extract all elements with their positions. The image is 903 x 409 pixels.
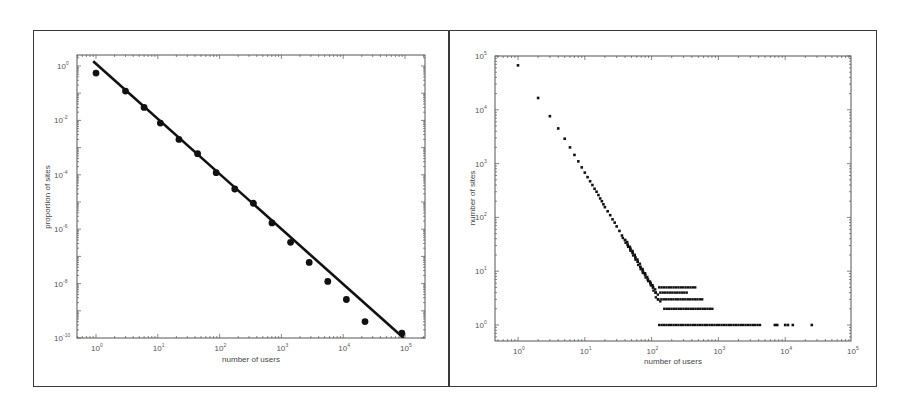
band-point xyxy=(678,308,680,310)
plot-area: 100101102103104105100101102103104105numb… xyxy=(468,50,859,366)
band-point xyxy=(701,298,703,300)
band-point xyxy=(665,286,667,288)
x-axis-label: number of users xyxy=(644,357,702,366)
band-point xyxy=(658,286,660,288)
band-point xyxy=(682,308,684,310)
y-tick-exponent: 1 xyxy=(484,265,487,271)
band-point xyxy=(699,298,701,300)
data-point xyxy=(573,154,576,157)
outlier-point xyxy=(774,324,777,327)
band-point xyxy=(740,324,742,326)
data-points xyxy=(517,64,813,326)
y-tick-exponent: 5 xyxy=(484,50,487,56)
band-point xyxy=(684,324,686,326)
band-point xyxy=(667,298,669,300)
data-point xyxy=(599,197,602,200)
band-point xyxy=(683,291,685,293)
band-point xyxy=(678,291,680,293)
band-point xyxy=(685,308,687,310)
outlier-point xyxy=(810,324,813,327)
right-chart-number-of-sites: 100101102103104105100101102103104105numb… xyxy=(0,0,903,409)
band-point xyxy=(744,324,746,326)
band-point xyxy=(732,324,734,326)
outlier-point xyxy=(776,324,779,327)
band-point xyxy=(694,308,696,310)
data-point xyxy=(586,176,589,179)
band-point xyxy=(756,324,758,326)
band-point xyxy=(718,324,720,326)
band-point xyxy=(663,324,665,326)
band-point xyxy=(687,298,689,300)
band-point xyxy=(665,324,667,326)
band-point xyxy=(660,286,662,288)
band-point xyxy=(664,291,666,293)
band-point xyxy=(666,291,668,293)
band-point xyxy=(672,324,674,326)
y-tick-exponent: 0 xyxy=(484,319,487,325)
band-point xyxy=(728,324,730,326)
data-point xyxy=(613,221,616,224)
data-point xyxy=(621,234,624,237)
band-point xyxy=(660,324,662,326)
band-point xyxy=(658,324,660,326)
band-point xyxy=(673,308,675,310)
data-point xyxy=(517,64,520,67)
band-point xyxy=(754,324,756,326)
band-point xyxy=(670,286,672,288)
band-point xyxy=(692,286,694,288)
band-point xyxy=(687,324,689,326)
band-point xyxy=(713,324,715,326)
band-point xyxy=(670,324,672,326)
band-point xyxy=(747,324,749,326)
band-point xyxy=(687,308,689,310)
band-point xyxy=(725,324,727,326)
data-point xyxy=(615,225,618,228)
band-point xyxy=(670,308,672,310)
band-point xyxy=(680,324,682,326)
band-point xyxy=(663,308,665,310)
band-point xyxy=(711,308,713,310)
outlier-point xyxy=(787,324,790,327)
band-point xyxy=(676,291,678,293)
data-point xyxy=(537,97,540,100)
data-point xyxy=(563,137,566,140)
band-point xyxy=(675,308,677,310)
band-point xyxy=(668,324,670,326)
band-point xyxy=(701,324,703,326)
data-point xyxy=(569,146,572,149)
data-point xyxy=(577,160,580,163)
band-point xyxy=(672,298,674,300)
band-point xyxy=(689,298,691,300)
band-point xyxy=(716,324,718,326)
data-point xyxy=(591,184,594,187)
band-point xyxy=(684,286,686,288)
band-point xyxy=(759,324,761,326)
band-point xyxy=(691,298,693,300)
x-tick-exponent: 3 xyxy=(722,345,725,351)
x-tick-exponent: 2 xyxy=(656,345,659,351)
outlier-point xyxy=(792,324,795,327)
band-point xyxy=(682,298,684,300)
data-point xyxy=(606,210,609,213)
band-point xyxy=(699,308,701,310)
band-point xyxy=(681,291,683,293)
band-point xyxy=(677,298,679,300)
band-point xyxy=(692,324,694,326)
y-tick-exponent: 4 xyxy=(484,104,487,110)
x-tick-exponent: 0 xyxy=(522,345,525,351)
band-point xyxy=(723,324,725,326)
band-point xyxy=(752,324,754,326)
band-point xyxy=(690,308,692,310)
band-point xyxy=(675,298,677,300)
band-point xyxy=(666,308,668,310)
band-point xyxy=(706,308,708,310)
band-point xyxy=(677,286,679,288)
band-point xyxy=(662,291,664,293)
band-point xyxy=(694,286,696,288)
band-point xyxy=(674,291,676,293)
band-point xyxy=(696,324,698,326)
band-point xyxy=(704,308,706,310)
data-point xyxy=(593,188,596,191)
band-point xyxy=(735,324,737,326)
band-point xyxy=(680,308,682,310)
